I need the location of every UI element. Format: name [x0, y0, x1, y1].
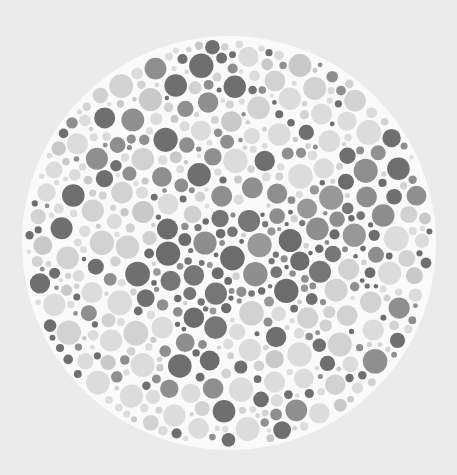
field-dot: [309, 403, 330, 424]
figure-dot: [330, 179, 335, 184]
field-dot: [409, 227, 417, 235]
field-dot: [46, 261, 52, 267]
field-dot: [146, 390, 160, 404]
field-dot: [54, 286, 59, 291]
field-dot: [391, 352, 397, 358]
field-dot: [145, 343, 152, 350]
field-dot: [62, 158, 69, 165]
field-dot: [217, 345, 221, 349]
field-dot: [253, 392, 269, 408]
field-dot: [168, 354, 192, 378]
field-dot: [49, 268, 60, 279]
figure-dot: [153, 268, 161, 276]
field-dot: [40, 267, 45, 272]
field-dot: [314, 366, 319, 371]
field-dot: [234, 195, 244, 205]
field-dot: [89, 189, 96, 196]
field-dot: [247, 97, 270, 120]
field-dot: [311, 104, 332, 125]
field-dot: [327, 98, 333, 104]
field-dot: [238, 47, 258, 67]
figure-dot: [174, 295, 181, 302]
figure-dot: [309, 261, 331, 283]
figure-dot: [303, 243, 309, 249]
field-dot: [337, 111, 356, 130]
field-dot: [56, 247, 79, 270]
figure-dot: [291, 215, 298, 222]
figure-dot: [289, 270, 295, 276]
field-dot: [31, 209, 46, 224]
field-dot: [254, 361, 265, 372]
figure-dot: [175, 322, 180, 327]
figure-dot: [142, 231, 156, 245]
field-dot: [267, 428, 271, 432]
field-dot: [189, 54, 213, 78]
field-dot: [236, 41, 244, 49]
figure-dot: [177, 263, 184, 270]
field-dot: [152, 374, 161, 383]
field-dot: [132, 97, 137, 102]
field-dot: [183, 436, 188, 441]
field-dot: [127, 145, 132, 150]
field-dot: [67, 133, 88, 154]
figure-dot: [323, 211, 327, 215]
figure-dot: [378, 179, 386, 187]
field-dot: [171, 115, 179, 123]
field-dot: [133, 181, 138, 186]
figure-dot: [181, 223, 188, 230]
field-dot: [407, 186, 427, 206]
field-dot: [204, 80, 214, 90]
field-dot: [189, 81, 202, 94]
field-dot: [229, 324, 245, 340]
figure-dot: [299, 220, 305, 226]
figure-dot: [232, 273, 240, 281]
field-dot: [287, 342, 311, 366]
field-dot: [263, 345, 269, 351]
field-dot: [177, 54, 187, 64]
field-dot: [163, 404, 185, 426]
field-dot: [302, 101, 308, 107]
field-dot: [345, 80, 354, 89]
field-dot: [131, 416, 137, 422]
field-dot: [107, 102, 111, 106]
field-dot: [195, 42, 203, 50]
field-dot: [188, 418, 209, 439]
field-dot: [242, 177, 263, 198]
figure-dot: [325, 240, 330, 245]
figure-dot: [329, 229, 339, 239]
field-dot: [127, 135, 136, 144]
field-dot: [215, 425, 221, 431]
figure-dot: [220, 246, 245, 271]
field-dot: [86, 371, 110, 395]
field-dot: [86, 148, 108, 170]
field-dot: [151, 194, 158, 201]
field-dot: [156, 214, 161, 219]
field-dot: [123, 411, 130, 418]
field-dot: [93, 88, 109, 104]
field-dot: [246, 120, 251, 125]
field-dot: [157, 299, 168, 310]
field-dot: [82, 257, 87, 262]
figure-dot: [207, 262, 213, 268]
figure-dot: [297, 199, 317, 219]
field-dot: [243, 145, 248, 150]
figure-dot: [301, 275, 309, 283]
field-dot: [79, 115, 91, 127]
field-dot: [223, 149, 247, 173]
field-dot: [47, 153, 53, 159]
figure-dot: [161, 271, 181, 291]
field-dot: [374, 284, 379, 289]
field-dot: [336, 367, 341, 372]
figure-dot: [184, 265, 205, 286]
field-dot: [269, 93, 273, 97]
field-dot: [139, 88, 162, 111]
field-dot: [57, 320, 81, 344]
field-dot: [320, 299, 326, 305]
field-dot: [421, 258, 432, 269]
field-dot: [120, 355, 130, 365]
field-dot: [134, 307, 143, 316]
field-dot: [315, 330, 320, 335]
field-dot: [239, 339, 261, 361]
field-dot: [123, 369, 129, 375]
field-dot: [356, 344, 363, 351]
